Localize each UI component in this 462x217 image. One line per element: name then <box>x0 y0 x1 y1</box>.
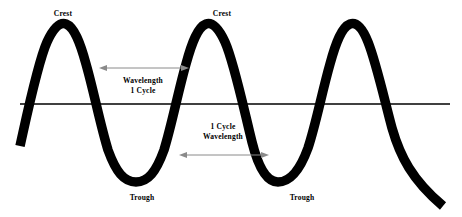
annotation-upper-line-2: 1 Cycle <box>123 86 163 96</box>
label-trough-first: Trough <box>130 193 155 203</box>
label-crest-first: Crest <box>54 9 72 19</box>
annotation-lower-line-2: Wavelength <box>203 132 243 142</box>
wave-diagram: Crest Crest Trough Trough Wavelength 1 C… <box>0 0 462 217</box>
sine-wave-path <box>20 24 443 206</box>
annotation-upper: Wavelength 1 Cycle <box>123 76 163 96</box>
arrow-head-left-icon <box>99 65 107 71</box>
wave-graphic <box>0 0 462 217</box>
label-trough-second: Trough <box>290 193 315 203</box>
label-crest-second: Crest <box>213 9 231 19</box>
annotation-lower: 1 Cycle Wavelength <box>203 122 243 142</box>
wavelength-arrow-upper <box>99 65 189 71</box>
annotation-upper-line-1: Wavelength <box>123 76 163 86</box>
annotation-lower-line-1: 1 Cycle <box>203 122 243 132</box>
arrow-head-left-icon <box>179 152 187 158</box>
arrow-head-right-icon <box>261 152 269 158</box>
